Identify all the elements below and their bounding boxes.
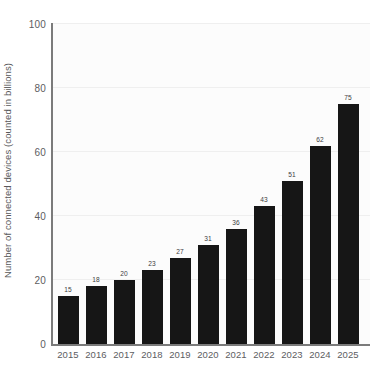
bar-value-label: 15 — [64, 286, 72, 293]
bar[interactable] — [170, 258, 191, 344]
bar-chart: 020406080100 1518202327313643516275 2015… — [0, 0, 377, 383]
bar[interactable] — [86, 286, 107, 344]
bar-value-label: 43 — [260, 196, 268, 203]
bar[interactable] — [114, 280, 135, 344]
bar-value-label: 62 — [316, 136, 324, 143]
bar-group[interactable]: 36 — [226, 24, 247, 344]
bar-value-label: 18 — [92, 276, 100, 283]
bar-group[interactable]: 15 — [58, 24, 79, 344]
bar-group[interactable]: 43 — [254, 24, 275, 344]
y-tick-label: 0 — [2, 339, 46, 350]
x-tick-label: 2025 — [331, 349, 365, 360]
bar-value-label: 75 — [344, 94, 352, 101]
bar[interactable] — [198, 245, 219, 344]
bar-value-label: 20 — [120, 270, 128, 277]
bar[interactable] — [282, 181, 303, 344]
x-axis-tick-labels: 2015201620172018201920202021202220232024… — [52, 349, 370, 369]
bar[interactable] — [310, 146, 331, 344]
bar-group[interactable]: 75 — [338, 24, 359, 344]
bar-group[interactable]: 18 — [86, 24, 107, 344]
y-axis-title: Number of connected devices (counted in … — [0, 0, 16, 340]
bar[interactable] — [338, 104, 359, 344]
bar-group[interactable]: 51 — [282, 24, 303, 344]
bar[interactable] — [58, 296, 79, 344]
x-axis-line — [51, 344, 370, 346]
bar-group[interactable]: 23 — [142, 24, 163, 344]
bar-value-label: 27 — [176, 248, 184, 255]
bar-group[interactable]: 27 — [170, 24, 191, 344]
y-axis-title-text: Number of connected devices (counted in … — [3, 62, 14, 277]
bar-group[interactable]: 31 — [198, 24, 219, 344]
bar[interactable] — [254, 206, 275, 344]
bar-value-label: 36 — [232, 219, 240, 226]
bar-group[interactable]: 20 — [114, 24, 135, 344]
bar-value-label: 23 — [148, 260, 156, 267]
bar[interactable] — [226, 229, 247, 344]
bar[interactable] — [142, 270, 163, 344]
bar-value-label: 51 — [288, 171, 296, 178]
bars-layer: 1518202327313643516275 — [52, 24, 370, 344]
bar-group[interactable]: 62 — [310, 24, 331, 344]
bar-value-label: 31 — [204, 235, 212, 242]
